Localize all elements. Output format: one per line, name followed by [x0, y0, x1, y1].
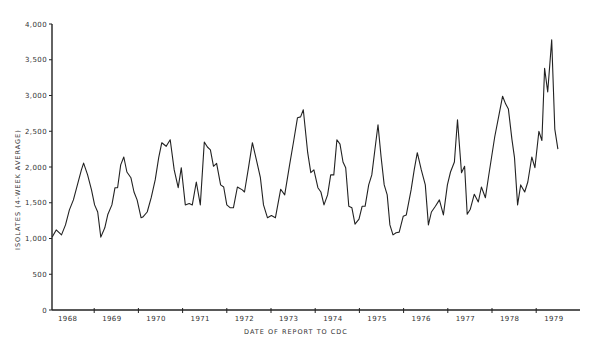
y-tick-label: 1,500: [25, 199, 47, 207]
y-tick-label: 500: [32, 271, 47, 279]
x-tick-label: 1972: [235, 315, 254, 323]
y-axis-title: ISOLATES (4-WEEK AVERAGE): [14, 129, 22, 250]
y-axis: 05001,0001,5002,0002,5003,0003,5004,000: [25, 21, 52, 315]
x-tick-label: 1974: [323, 315, 343, 323]
y-tick-label: 3,500: [25, 56, 47, 64]
y-tick-label: 0: [42, 307, 47, 315]
x-axis: 1968196919701971197219731974197519761977…: [52, 308, 580, 323]
x-tick-label: 1976: [412, 315, 432, 323]
isolates-series-line: [52, 40, 558, 237]
y-tick-label: 2,000: [25, 164, 47, 172]
x-tick-label: 1969: [102, 315, 121, 323]
x-tick-label: 1975: [367, 315, 386, 323]
x-tick-label: 1973: [279, 315, 298, 323]
y-tick-label: 3,000: [25, 92, 47, 100]
x-tick-label: 1979: [544, 315, 563, 323]
y-tick-label: 2,500: [25, 128, 47, 136]
x-tick-label: 1971: [191, 315, 210, 323]
line-chart: 05001,0001,5002,0002,5003,0003,5004,000 …: [0, 0, 595, 347]
x-tick-label: 1968: [58, 315, 77, 323]
x-tick-label: 1970: [146, 315, 165, 323]
y-tick-label: 4,000: [25, 21, 47, 29]
x-tick-label: 1978: [500, 315, 519, 323]
x-tick-label: 1977: [456, 315, 475, 323]
y-tick-label: 1,000: [25, 235, 47, 243]
x-axis-title: DATE OF REPORT TO CDC: [244, 328, 348, 336]
